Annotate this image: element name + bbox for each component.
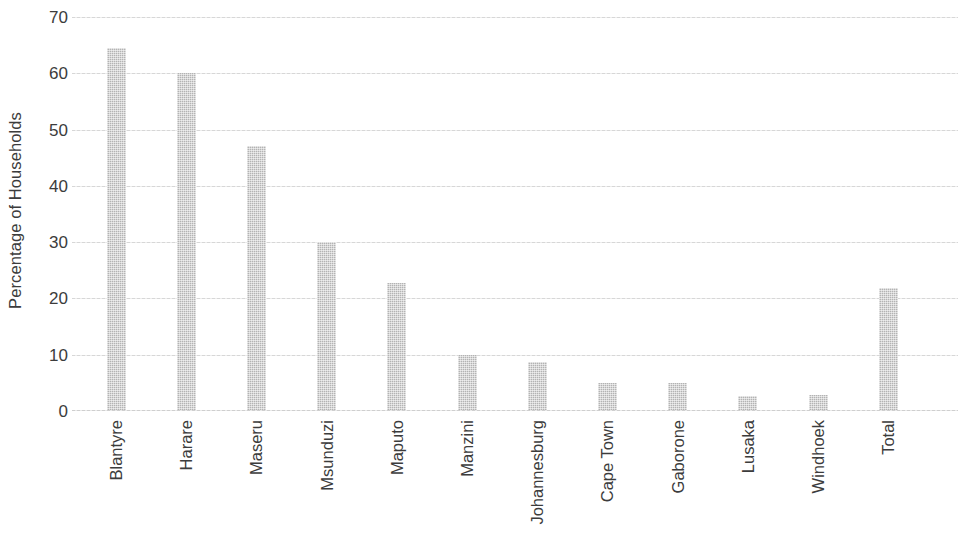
x-tick-label: Gaborone [670, 420, 687, 493]
y-tick-label: 0 [30, 403, 68, 420]
y-tick-label: 70 [30, 9, 68, 26]
plot-area [72, 17, 958, 411]
y-tick-label: 30 [30, 234, 68, 251]
x-tick-label: Maputo [389, 420, 406, 475]
bar [387, 283, 406, 411]
bar [598, 383, 617, 411]
y-axis-title: Percentage of Households [0, 0, 30, 420]
x-tick-label: Blantyre [108, 420, 125, 481]
gridline [72, 17, 958, 18]
y-axis-tick-labels: 010203040506070 [30, 0, 68, 430]
y-tick-label: 50 [30, 121, 68, 138]
axis-baseline [72, 410, 958, 411]
gridline [72, 73, 958, 74]
x-tick-label: Cape Town [599, 420, 616, 502]
x-tick-label: Lusaka [740, 420, 757, 473]
bar [247, 146, 266, 411]
bar [879, 288, 898, 411]
x-tick-label: Windhoek [810, 420, 827, 493]
bar [809, 395, 828, 411]
bar-chart: Percentage of Households 010203040506070… [0, 0, 958, 548]
bar [107, 48, 126, 411]
bar [317, 242, 336, 411]
x-tick-label: Harare [178, 420, 195, 470]
y-tick-label: 40 [30, 177, 68, 194]
x-axis-tick-labels: BlantyreHarareMaseruMsunduziMaputoManzin… [72, 414, 958, 548]
x-tick-label: Total [880, 420, 897, 455]
x-tick-label: Maseru [248, 420, 265, 475]
gridline [72, 130, 958, 131]
x-tick-label: Msunduzi [319, 420, 336, 491]
y-axis-title-label: Percentage of Households [6, 112, 25, 309]
bar [668, 383, 687, 411]
y-tick-label: 20 [30, 290, 68, 307]
y-tick-label: 10 [30, 346, 68, 363]
bar [738, 396, 757, 411]
gridline [72, 298, 958, 299]
y-tick-label: 60 [30, 65, 68, 82]
gridline [72, 242, 958, 243]
bar [458, 355, 477, 411]
gridline [72, 186, 958, 187]
x-tick-label: Manzini [459, 420, 476, 477]
gridline [72, 355, 958, 356]
bar [177, 73, 196, 411]
x-tick-label: Johannesburg [529, 420, 546, 525]
bar [528, 362, 547, 411]
